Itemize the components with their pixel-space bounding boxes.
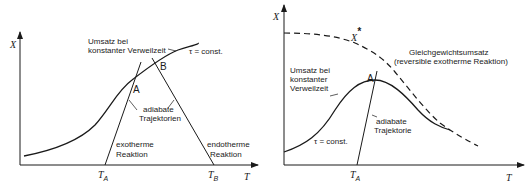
right-curve-label-leader xyxy=(330,94,338,96)
left-curve-label-leader xyxy=(168,49,176,51)
left-diagram: X T Umsatz bei konstanter Verweilzeit τ … xyxy=(9,32,258,182)
right-equilibrium-symbol: X* xyxy=(350,26,362,43)
right-tick-ta: TA xyxy=(350,169,361,182)
left-trajectory-leader-a xyxy=(129,100,137,110)
left-trajectories-label-2: Trajektorien xyxy=(139,114,181,123)
right-trajectory-label-1: adiabate xyxy=(376,117,407,126)
left-endo-label-1: endotherme xyxy=(207,140,250,149)
right-y-axis-label: X xyxy=(272,11,280,22)
left-conversion-curve xyxy=(24,43,198,156)
left-point-b: B xyxy=(160,61,167,72)
left-curve-label-1: Umsatz bei xyxy=(88,37,128,46)
right-tau-label: τ = const. xyxy=(314,137,348,146)
right-equilibrium-label-1: Gleichgewichtsumsatz xyxy=(409,48,489,57)
left-exo-label-1: exotherme xyxy=(116,140,154,149)
left-trajectories-label-1: adiabate xyxy=(143,105,174,114)
right-adiabatic-trajectory xyxy=(357,71,377,165)
right-equilibrium-label-2: (reversible exotherme Reaktion) xyxy=(394,57,508,66)
left-point-a: A xyxy=(133,84,140,95)
right-curve-label-2: konstanter xyxy=(290,75,328,84)
right-trajectory-label-2: Trajektorie xyxy=(374,126,412,135)
left-curve-label-2: konstanter Verweilzeit xyxy=(88,46,167,55)
diagram-canvas: X T Umsatz bei konstanter Verweilzeit τ … xyxy=(0,0,529,186)
left-x-axis-label: T xyxy=(244,171,251,182)
left-tick-tb: TB xyxy=(208,169,219,182)
right-curve-label-3: Verweilzeit xyxy=(290,84,329,93)
right-point-a: A xyxy=(367,73,374,84)
left-y-axis-label: X xyxy=(9,39,17,50)
right-diagram: X T X* Gleichgewichtsumsatz (reversible … xyxy=(272,5,524,183)
right-curve-label-1: Umsatz bei xyxy=(290,66,330,75)
left-exo-label-2: Reaktion xyxy=(116,150,148,159)
left-endo-label-2: Reaktion xyxy=(210,150,242,159)
right-x-axis-label: T xyxy=(506,172,513,183)
left-tau-label: τ = const. xyxy=(189,47,223,56)
left-tick-ta: TA xyxy=(98,169,109,182)
